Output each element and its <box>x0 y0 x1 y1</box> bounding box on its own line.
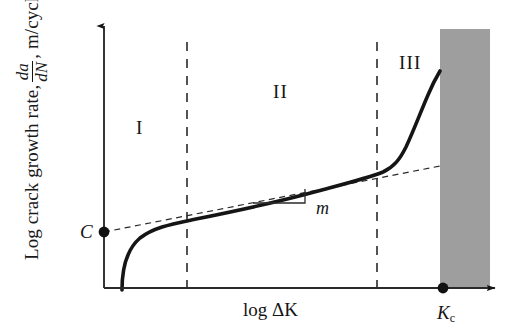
fatigue-crack-growth-figure: Log crack growth rate, da dN , m/cycle I… <box>0 0 517 333</box>
kc-shaded-band <box>440 29 490 288</box>
paris-asymptote-dashed-line <box>104 166 440 232</box>
c-intercept-dot <box>99 227 110 238</box>
slope-exponent-label: m <box>316 199 329 217</box>
region-label-three: III <box>399 53 422 72</box>
da-dn-fraction: da dN <box>14 60 50 84</box>
fraction-numerator: da <box>14 61 32 82</box>
kc-label-subscript: c <box>450 311 455 325</box>
crack-growth-curve <box>122 71 440 290</box>
y-axis-label-units: , m/cycle <box>21 0 43 59</box>
plot-canvas <box>0 0 517 333</box>
fraction-denominator: dN <box>33 60 50 84</box>
kc-label: Kc <box>437 303 455 324</box>
region-label-two: II <box>273 82 288 101</box>
kc-dot <box>438 283 449 294</box>
c-intercept-label: C <box>80 222 93 241</box>
y-axis-label-text: Log crack growth rate, <box>21 85 43 260</box>
x-axis-label: log ΔK <box>243 300 298 319</box>
region-label-one: I <box>136 118 144 137</box>
y-axis-label: Log crack growth rate, da dN , m/cycle <box>0 0 64 260</box>
kc-label-base: K <box>437 302 450 323</box>
